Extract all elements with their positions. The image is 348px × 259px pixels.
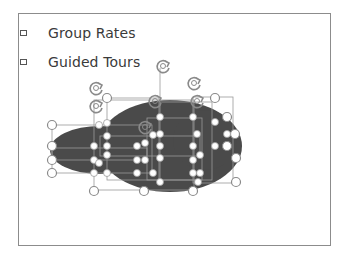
selected-cloud-shapes[interactable] xyxy=(0,0,348,259)
